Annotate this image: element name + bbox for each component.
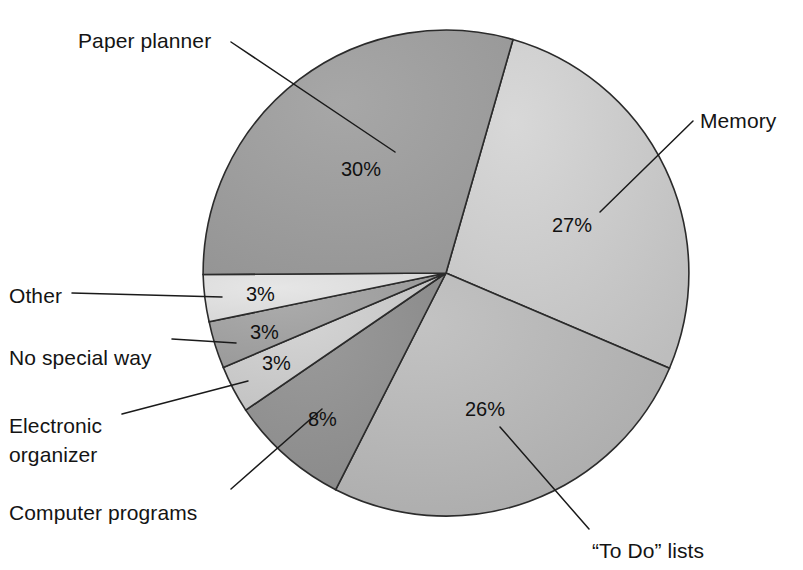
pie-chart-svg xyxy=(0,0,803,570)
slice-value-no-special-way: 3% xyxy=(250,321,279,343)
slice-label-no-special-way: No special way xyxy=(9,345,152,370)
leader-line-other xyxy=(72,293,222,297)
slice-label-electronic-organizer-line1: Electronic xyxy=(9,413,102,438)
slice-value-paper-planner: 30% xyxy=(341,158,381,180)
slice-label-todo-lists: “To Do” lists xyxy=(592,538,704,563)
slice-label-memory: Memory xyxy=(700,108,776,133)
slice-value-other: 3% xyxy=(246,283,275,305)
slice-label-electronic-organizer-line2: organizer xyxy=(9,442,97,467)
slice-label-paper-planner: Paper planner xyxy=(78,28,211,53)
slice-value-computer-programs: 8% xyxy=(308,408,337,430)
pie-slices xyxy=(203,30,689,516)
slice-value-memory: 27% xyxy=(552,214,592,236)
leader-line-electronic-organizer xyxy=(122,381,248,414)
pie-chart-figure: Paper planner Memory “To Do” lists Other… xyxy=(0,0,803,570)
slice-value-todo-lists: 26% xyxy=(465,398,505,420)
slice-label-other: Other xyxy=(9,283,62,308)
slice-label-computer-programs: Computer programs xyxy=(9,500,197,525)
slice-value-electronic-organizer: 3% xyxy=(262,352,291,374)
